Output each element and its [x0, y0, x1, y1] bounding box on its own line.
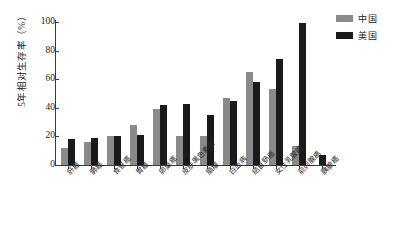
chart-figure: 5年相对生存率（%） 020406080100 肝癌肺癌食管癌胃癌卵巢癌皮肤黑色… — [0, 0, 394, 234]
bar-group — [311, 22, 334, 165]
legend-item: 美国 — [336, 29, 394, 42]
bar — [223, 98, 230, 165]
chart-legend: 中国美国 — [336, 12, 394, 46]
bar-group — [218, 22, 241, 165]
bar — [153, 109, 160, 165]
bar — [107, 136, 114, 165]
bar-group — [56, 22, 79, 165]
bar-group — [241, 22, 264, 165]
legend-item: 中国 — [336, 12, 394, 25]
bar-group — [149, 22, 172, 165]
bar — [230, 101, 237, 165]
x-axis-labels: 肝癌肺癌食管癌胃癌卵巢癌皮肤黑色素瘤脑瘤白血病结直肠癌女性乳腺癌前列腺癌胰腺癌 — [56, 169, 334, 234]
y-tick-label: 40 — [25, 103, 55, 113]
legend-swatch — [336, 32, 353, 39]
legend-swatch — [336, 15, 353, 22]
bar — [61, 148, 68, 165]
bar-group — [172, 22, 195, 165]
legend-label: 中国 — [358, 12, 377, 25]
bar-group — [265, 22, 288, 165]
bar — [183, 104, 190, 165]
bar-group — [288, 22, 311, 165]
bar-group — [79, 22, 102, 165]
y-tick-label: 60 — [25, 74, 55, 84]
bar-group — [102, 22, 125, 165]
bar-groups — [56, 22, 334, 165]
legend-label: 美国 — [358, 29, 377, 42]
bar — [246, 72, 253, 165]
y-tick-label: 100 — [25, 17, 55, 27]
y-tick-label: 80 — [25, 46, 55, 56]
bar — [299, 23, 306, 165]
y-tick-label: 20 — [25, 131, 55, 141]
bar — [253, 82, 260, 165]
y-tick-label: 0 — [25, 160, 55, 170]
bar-group — [126, 22, 149, 165]
bar — [276, 59, 283, 165]
bar — [160, 105, 167, 165]
bar — [84, 142, 91, 165]
